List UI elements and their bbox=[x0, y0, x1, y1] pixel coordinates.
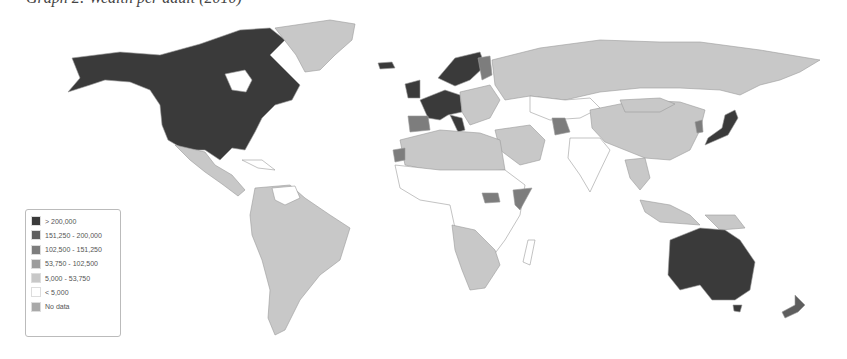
legend-item: No data bbox=[31, 300, 120, 314]
map-legend: > 200,000 151,250 - 200,000 102,500 - 15… bbox=[25, 209, 121, 337]
legend-item: > 200,000 bbox=[31, 214, 120, 228]
region-south-america bbox=[250, 185, 350, 335]
legend-item: < 5,000 bbox=[31, 285, 120, 299]
legend-swatch bbox=[31, 259, 41, 269]
region-australia bbox=[668, 228, 755, 300]
legend-swatch bbox=[31, 216, 41, 226]
legend-swatch bbox=[31, 245, 41, 255]
region-north-africa bbox=[400, 130, 505, 172]
legend-item: 151,250 - 200,000 bbox=[31, 228, 120, 242]
legend-swatch bbox=[31, 273, 41, 283]
region-western-europe bbox=[420, 90, 462, 120]
legend-label: > 200,000 bbox=[45, 218, 76, 225]
legend-label: 5,000 - 53,750 bbox=[45, 275, 90, 282]
legend-item: 5,000 - 53,750 bbox=[31, 271, 120, 285]
region-japan bbox=[705, 110, 738, 145]
legend-swatch bbox=[31, 230, 41, 240]
world-map bbox=[0, 0, 847, 359]
region-new-zealand bbox=[782, 295, 805, 318]
region-india bbox=[568, 138, 610, 192]
legend-label: 102,500 - 151,250 bbox=[45, 246, 102, 253]
legend-item: 53,750 - 102,500 bbox=[31, 257, 120, 271]
legend-label: 53,750 - 102,500 bbox=[45, 260, 98, 267]
region-russia bbox=[492, 40, 820, 100]
legend-label: No data bbox=[45, 303, 70, 310]
legend-label: 151,250 - 200,000 bbox=[45, 232, 102, 239]
legend-swatch bbox=[31, 302, 41, 312]
legend-label: < 5,000 bbox=[45, 289, 69, 296]
legend-item: 102,500 - 151,250 bbox=[31, 243, 120, 257]
region-north-america bbox=[68, 28, 300, 160]
region-greenland bbox=[275, 20, 355, 72]
legend-swatch bbox=[31, 287, 41, 297]
region-iberia bbox=[408, 116, 430, 132]
